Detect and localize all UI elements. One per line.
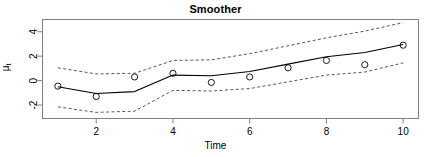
upper-confidence-band — [58, 23, 403, 74]
data-point-marker — [131, 74, 137, 80]
x-tick-label: 2 — [93, 126, 99, 137]
data-point-marker — [208, 79, 214, 85]
data-point-marker — [362, 62, 368, 68]
y-axis-label: μt — [0, 50, 15, 86]
x-tick-label: 4 — [170, 126, 176, 137]
y-tick-label: 4 — [28, 29, 39, 35]
lower-confidence-band — [58, 63, 403, 113]
x-tick-label: 10 — [398, 126, 410, 137]
y-axis-label-mu: μ — [0, 66, 11, 72]
data-point-marker — [93, 93, 99, 99]
y-tick-label: -2 — [28, 100, 39, 109]
y-tick-label: 2 — [28, 53, 39, 59]
data-point-marker — [323, 57, 329, 63]
x-tick-label: 8 — [324, 126, 330, 137]
data-point-marker — [285, 65, 291, 71]
y-axis-label-subscript: t — [5, 64, 12, 66]
x-tick-label: 6 — [247, 126, 253, 137]
chart-figure: Smoother 246810-2024 Time μt — [0, 0, 431, 157]
plot-frame — [43, 20, 419, 119]
plot-area: 246810-2024 — [0, 0, 431, 157]
x-axis-label: Time — [0, 140, 431, 152]
y-tick-label: 0 — [28, 77, 39, 83]
smoother-line — [58, 45, 403, 94]
data-point-marker — [247, 74, 253, 80]
data-point-marker — [55, 83, 61, 89]
